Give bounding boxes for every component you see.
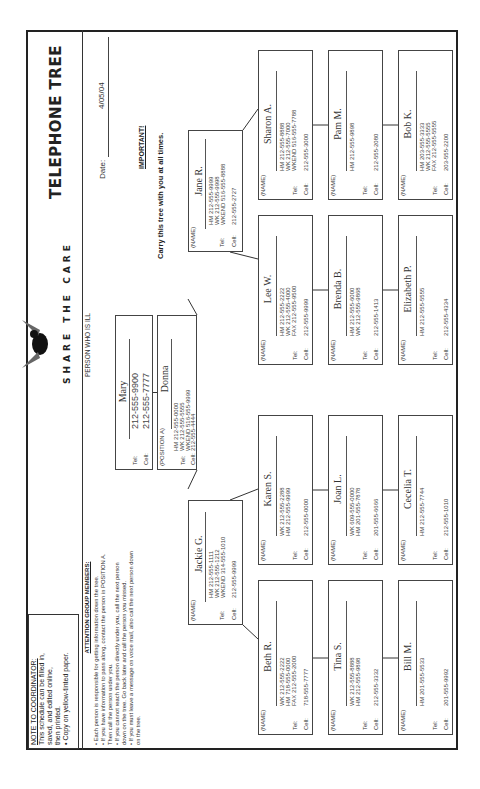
cell-value: 201-555-9992 bbox=[443, 669, 449, 706]
cell-label: Cell: bbox=[303, 548, 309, 560]
tel-label: Tel: bbox=[292, 351, 298, 360]
name-label: (NAME) bbox=[400, 340, 406, 361]
member-name: Sharon A. bbox=[262, 89, 273, 159]
name-underline bbox=[276, 71, 277, 171]
cell-value: 718-555-7777 bbox=[303, 669, 309, 706]
cell-label: Cell: bbox=[373, 183, 379, 195]
tel-label: Tel: bbox=[292, 721, 298, 730]
name-underline bbox=[416, 71, 417, 171]
name-underline bbox=[416, 236, 417, 336]
member-card: (NAME) Sharon A. HM 212-555-8888WK 212-5… bbox=[258, 50, 313, 200]
cell-label: Cell: bbox=[303, 718, 309, 730]
member-card: (NAME) Bill M. HM 201-555-5533Tel: Cell:… bbox=[398, 580, 453, 735]
cell-value: 212-555-2080 bbox=[373, 134, 379, 171]
member-name: Bob K. bbox=[402, 89, 413, 159]
name-label: (NAME) bbox=[400, 175, 406, 196]
phone: FAX 212-555-2000 bbox=[291, 656, 298, 706]
member-name: Joan L. bbox=[332, 454, 343, 524]
tel-label: Tel: bbox=[432, 721, 438, 730]
name-underline bbox=[416, 436, 417, 536]
cell-value: 212-555-1413 bbox=[373, 299, 379, 336]
cell-label: Cell: bbox=[373, 548, 379, 560]
member-card: (NAME) Joan L. WK 609-555-0000HM 201-555… bbox=[328, 415, 383, 565]
branch-leader-card: (NAME) Jane R. HM 212-555-9999 WK 212-55… bbox=[188, 130, 243, 252]
name-label: (NAME) bbox=[260, 710, 266, 731]
tel-label: Tel: bbox=[362, 351, 368, 360]
member-card: (NAME) Elizabeth P. HM 212-555-5555Tel: … bbox=[398, 215, 453, 365]
phone: HM 201-555-7878 bbox=[355, 488, 362, 536]
name-label: (NAME) bbox=[400, 710, 406, 731]
phone: FAX 212-555-9500 bbox=[291, 286, 298, 336]
tel-label: Tel: bbox=[362, 721, 368, 730]
name-underline bbox=[205, 512, 206, 602]
phone: HM 201-555-5533 bbox=[419, 658, 426, 706]
phone: WKEND 314-555-1010 bbox=[220, 537, 227, 598]
phone: HM 212-555-9898 bbox=[349, 123, 356, 171]
phone: WK 212-555-9868 bbox=[355, 287, 362, 336]
cell-value: 212-555-3332 bbox=[373, 669, 379, 706]
member-name: Cecelia T. bbox=[402, 454, 413, 524]
name-underline bbox=[205, 139, 206, 229]
cell-label: Cell: bbox=[443, 718, 449, 730]
tel-label: Tel: bbox=[432, 351, 438, 360]
member-name: Karen S. bbox=[262, 454, 273, 524]
cell-value: 212-555-1010 bbox=[443, 499, 449, 536]
tel-label: Tel: bbox=[432, 551, 438, 560]
name-label: (NAME) bbox=[260, 540, 266, 561]
phone: FAX 212-555-5555 bbox=[431, 121, 438, 171]
name-label: (NAME) bbox=[400, 540, 406, 561]
name-label: (NAME) bbox=[260, 175, 266, 196]
member-card: (NAME) Karen S. WK 212-555-2288HM 212-55… bbox=[258, 415, 313, 565]
name-label: (NAME) bbox=[330, 710, 336, 731]
member-name: Brenda B. bbox=[332, 254, 343, 324]
name-underline bbox=[346, 71, 347, 171]
member-name: Elizabeth P. bbox=[402, 254, 413, 324]
cell-value: 212-555-9999 bbox=[231, 561, 237, 598]
member-name: Beth R. bbox=[262, 622, 273, 692]
tel-label: Tel: bbox=[219, 611, 225, 620]
member-card: (NAME) Pam M. HM 212-555-9898Tel: Cell: … bbox=[328, 50, 383, 200]
cell-value: 201-555-6666 bbox=[373, 499, 379, 536]
name-underline bbox=[346, 236, 347, 336]
member-name: Tina S. bbox=[332, 622, 343, 692]
cell-value: 212-555-0000 bbox=[303, 499, 309, 536]
telephone-tree-page: TELEPHONE TREE NOTE TO COORDINATOR: This… bbox=[0, 0, 480, 789]
name-label: (NAME) bbox=[330, 540, 336, 561]
member-card: (NAME) Beth R. WK 212-555-2222HM 718-555… bbox=[258, 580, 313, 735]
phone: WKEND 516-555-8888 bbox=[220, 164, 227, 225]
member-card: (NAME) Cecelia T. HM 212-555-7744Tel: Ce… bbox=[398, 415, 453, 565]
cell-value: 203-555-2200 bbox=[443, 134, 449, 171]
member-name: Pam M. bbox=[332, 89, 343, 159]
cell-label: Cell: bbox=[231, 235, 237, 247]
cell-label: Cell: bbox=[303, 348, 309, 360]
cell-label: Cell: bbox=[231, 608, 237, 620]
name-label: (NAME) bbox=[190, 600, 196, 621]
cell-value: 212-555-4334 bbox=[443, 299, 449, 336]
cell-label: Cell: bbox=[443, 183, 449, 195]
phone: HM 212-555-9898 bbox=[355, 658, 362, 706]
cell-label: Cell: bbox=[443, 348, 449, 360]
leader-name: Jane R. bbox=[193, 151, 204, 211]
leader-name: Jackie G. bbox=[193, 524, 204, 584]
name-label: (NAME) bbox=[190, 227, 196, 248]
name-underline bbox=[276, 601, 277, 706]
phone: HM 212-555-5555 bbox=[419, 288, 426, 336]
cell-label: Cell: bbox=[443, 548, 449, 560]
phone: HM 212-555-7744 bbox=[419, 488, 426, 536]
member-card: (NAME) Tina S. WK 212-555-8888HM 212-555… bbox=[328, 580, 383, 735]
cell-label: Cell: bbox=[373, 718, 379, 730]
member-name: Lee W. bbox=[262, 254, 273, 324]
name-underline bbox=[416, 601, 417, 706]
member-card: (NAME) Lee W. HM 212-555-2222WK 212-555-… bbox=[258, 215, 313, 365]
cell-label: Cell: bbox=[373, 348, 379, 360]
phone: HM 212-555-9999 bbox=[285, 488, 292, 536]
name-underline bbox=[346, 601, 347, 706]
name-underline bbox=[276, 236, 277, 336]
tel-label: Tel: bbox=[292, 551, 298, 560]
name-underline bbox=[346, 436, 347, 536]
cell-value: 212-555-9999 bbox=[303, 299, 309, 336]
cell-label: Cell: bbox=[303, 183, 309, 195]
tel-label: Tel: bbox=[292, 186, 298, 195]
tel-label: Tel: bbox=[432, 186, 438, 195]
name-label: (NAME) bbox=[330, 175, 336, 196]
